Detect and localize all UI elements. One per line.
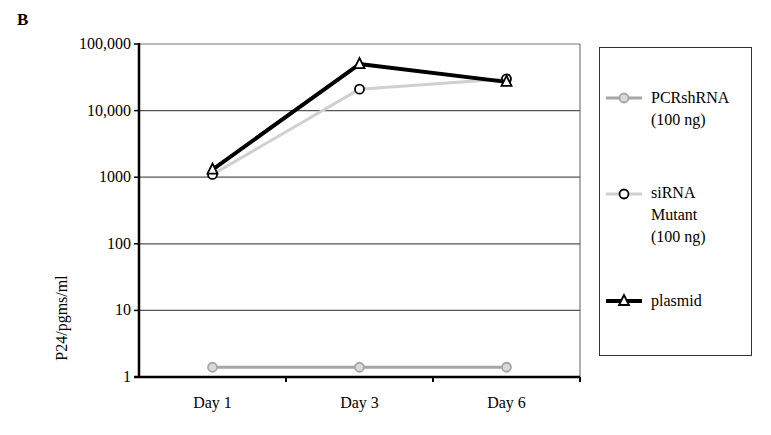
y-tick-label: 100,000	[79, 36, 131, 52]
series-sirna-mutant-100-ng	[208, 74, 511, 179]
series-pcrshrna-100-ng	[208, 363, 511, 372]
circle-marker	[355, 85, 364, 94]
y-tick-label: 1000	[99, 169, 131, 185]
x-tick-label: Day 6	[467, 394, 547, 412]
x-tick-label: Day 3	[320, 394, 400, 412]
legend: PCRshRNA (100 ng) siRNA Mutant (100 ng) …	[599, 47, 752, 356]
circle-marker	[208, 363, 217, 372]
legend-label-sirna-mutant: siRNA Mutant (100 ng)	[651, 182, 706, 248]
x-tick-label: Day 1	[173, 394, 253, 412]
y-tick-label: 10	[115, 302, 131, 318]
circle-marker	[620, 94, 629, 103]
circle-marker	[355, 363, 364, 372]
y-tick-label: 100	[107, 236, 131, 252]
y-tick-label: 10,000	[87, 103, 131, 119]
circle-marker	[620, 190, 629, 199]
panel-label: B	[17, 10, 28, 30]
y-axis-label: P24/pgms/ml	[53, 275, 71, 360]
legend-label-pcrshrna: PCRshRNA (100 ng)	[651, 87, 729, 131]
triangle-marker	[355, 58, 365, 68]
legend-label-plasmid: plasmid	[651, 290, 702, 312]
legend-symbol	[606, 94, 642, 103]
circle-marker	[502, 363, 511, 372]
series-plasmid	[208, 58, 512, 174]
y-tick-label: 1	[123, 369, 131, 385]
legend-symbol	[606, 190, 642, 199]
series-line	[213, 64, 507, 170]
triangle-marker	[619, 295, 629, 305]
legend-symbol	[606, 295, 642, 305]
